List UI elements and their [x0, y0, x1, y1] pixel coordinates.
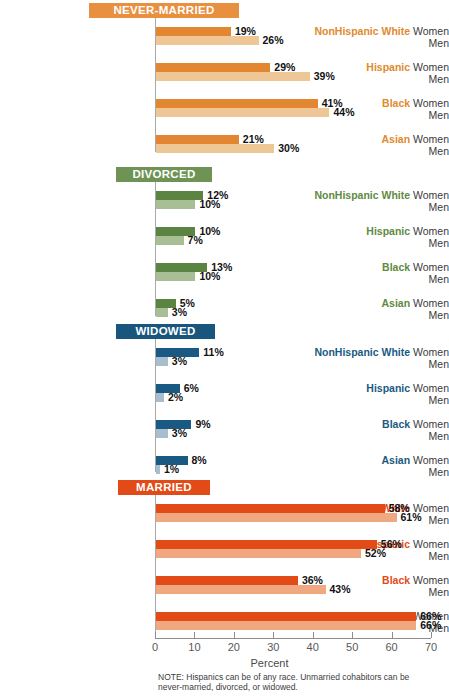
- bar-value-label: 29%: [274, 63, 295, 72]
- sex-label-women: Women: [413, 61, 449, 73]
- race-label: Black: [382, 97, 410, 109]
- row-label-widowed-2: Black WomenMen: [298, 420, 449, 441]
- x-axis-title: Percent: [161, 657, 289, 669]
- row-label-never-married-3: Asian WomenMen: [298, 135, 449, 156]
- bar-value-label: 66%: [420, 621, 441, 630]
- x-axis-tick-30: [273, 632, 274, 638]
- race-label: Hispanic: [366, 382, 410, 394]
- row-label-divorced-1: Hispanic WomenMen: [298, 227, 449, 248]
- bar-married-hispanic-men: [156, 549, 361, 558]
- bar-widowed-nonhispanic-white-men: [156, 357, 168, 366]
- sex-label-women: Women: [413, 133, 449, 145]
- row-label-divorced-2: Black WomenMen: [298, 263, 449, 284]
- race-label: Black: [382, 418, 410, 430]
- bar-value-label: 3%: [172, 357, 187, 366]
- x-axis-title-wrap: Percent: [0, 657, 449, 669]
- sex-label-women: Women: [413, 97, 449, 109]
- bar-never-married-nonhispanic-white-women: [156, 27, 231, 36]
- section-badge-married: MARRIED: [118, 480, 210, 495]
- race-label: Black: [382, 574, 410, 586]
- bar-value-label: 1%: [164, 465, 179, 474]
- sex-label-men: Men: [429, 237, 449, 249]
- sex-label-men: Men: [429, 514, 449, 526]
- x-axis-tick-label-50: 50: [346, 641, 358, 653]
- bar-value-label: 7%: [188, 236, 203, 245]
- bar-value-label: 9%: [195, 420, 210, 429]
- bar-value-label: 8%: [192, 456, 207, 465]
- race-label: NonHispanic White: [314, 346, 410, 358]
- bar-never-married-asian-women: [156, 135, 239, 144]
- bar-never-married-asian-men: [156, 144, 274, 153]
- x-axis-tick-50: [352, 632, 353, 638]
- bar-never-married-hispanic-men: [156, 72, 310, 81]
- race-label: Asian: [381, 133, 410, 145]
- bar-value-label: 6%: [184, 384, 199, 393]
- sex-label-women: Women: [413, 382, 449, 394]
- x-axis-tick-60: [392, 632, 393, 638]
- bar-value-label: 44%: [333, 108, 354, 117]
- sex-label-women: Women: [413, 297, 449, 309]
- section-badge-divorced: DIVORCED: [116, 167, 212, 182]
- sex-label-men: Men: [429, 358, 449, 370]
- sex-label-men: Men: [429, 394, 449, 406]
- bar-widowed-black-men: [156, 429, 168, 438]
- race-label: Hispanic: [366, 61, 410, 73]
- sex-label-women: Women: [413, 418, 449, 430]
- bar-value-label: 61%: [401, 513, 422, 522]
- sex-label-women: Women: [413, 25, 449, 37]
- bar-value-label: 10%: [199, 200, 220, 209]
- bar-value-label: 3%: [172, 429, 187, 438]
- bar-married-nonhispanic-white-men: [156, 513, 397, 522]
- bar-divorced-nonhispanic-white-men: [156, 200, 195, 209]
- bar-widowed-hispanic-men: [156, 393, 164, 402]
- x-axis-line: [155, 638, 431, 639]
- chart-note: NOTE: Hispanics can be of any race. Unma…: [158, 672, 428, 692]
- bar-divorced-nonhispanic-white-women: [156, 191, 203, 200]
- x-axis-tick-40: [313, 632, 314, 638]
- sex-label-men: Men: [429, 145, 449, 157]
- bar-value-label: 36%: [302, 576, 323, 585]
- sex-label-women: Women: [413, 454, 449, 466]
- bar-married-nonhispanic-white-women: [156, 504, 385, 513]
- sex-label-men: Men: [429, 309, 449, 321]
- bar-divorced-black-men: [156, 272, 195, 281]
- section-badge-never-married: NEVER-MARRIED: [89, 3, 239, 18]
- x-axis-tick-label-30: 30: [267, 641, 279, 653]
- sex-label-men: Men: [429, 73, 449, 85]
- sex-label-women: Women: [413, 189, 449, 201]
- sex-label-men: Men: [429, 201, 449, 213]
- bar-widowed-asian-men: [156, 465, 160, 474]
- race-label: Black: [382, 261, 410, 273]
- x-axis-tick-0: [155, 632, 156, 638]
- row-label-divorced-3: Asian WomenMen: [298, 299, 449, 320]
- sex-label-men: Men: [429, 37, 449, 49]
- bar-value-label: 39%: [314, 72, 335, 81]
- bar-divorced-hispanic-men: [156, 236, 184, 245]
- bar-value-label: 19%: [235, 27, 256, 36]
- x-axis-tick-label-40: 40: [307, 641, 319, 653]
- sex-label-women: Women: [413, 225, 449, 237]
- sex-label-men: Men: [429, 109, 449, 121]
- x-axis-tick-label-20: 20: [228, 641, 240, 653]
- x-axis-tick-label-0: 0: [152, 641, 158, 653]
- x-axis-tick-label-70: 70: [425, 641, 437, 653]
- x-axis-tick-70: [431, 632, 432, 638]
- sex-label-men: Men: [429, 586, 449, 598]
- bar-married-black-women: [156, 576, 298, 585]
- bar-never-married-black-men: [156, 108, 329, 117]
- bar-married-asian-women: [156, 612, 416, 621]
- bar-never-married-black-women: [156, 99, 318, 108]
- x-axis-tick-10: [194, 632, 195, 638]
- sex-label-women: Women: [413, 261, 449, 273]
- row-label-widowed-0: NonHispanic White WomenMen: [298, 348, 449, 369]
- sex-label-men: Men: [429, 466, 449, 478]
- bar-never-married-nonhispanic-white-men: [156, 36, 259, 45]
- row-label-widowed-1: Hispanic WomenMen: [298, 384, 449, 405]
- bar-value-label: 3%: [172, 308, 187, 317]
- row-label-never-married-0: NonHispanic White WomenMen: [298, 27, 449, 48]
- bar-value-label: 43%: [330, 585, 351, 594]
- race-label: Asian: [381, 297, 410, 309]
- bar-value-label: 30%: [278, 144, 299, 153]
- x-axis-tick-label-60: 60: [385, 641, 397, 653]
- bar-married-hispanic-women: [156, 540, 377, 549]
